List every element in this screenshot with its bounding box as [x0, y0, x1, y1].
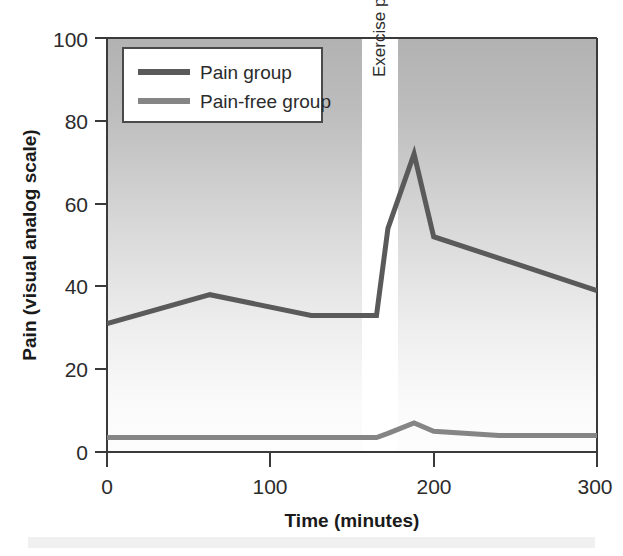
legend-label-pain-free-group: Pain-free group	[200, 91, 331, 112]
bottom-strip	[28, 537, 595, 548]
y-tick-label-40: 40	[65, 275, 88, 298]
x-axis-ticks	[107, 452, 597, 467]
y-tick-label-100: 100	[53, 28, 88, 51]
chart-figure: Exercise period 0 20 40 60 80 100	[0, 0, 623, 556]
y-axis-ticks	[95, 38, 107, 452]
y-tick-label-80: 80	[65, 110, 88, 133]
x-tick-label-100: 100	[252, 475, 287, 498]
chart-legend: Pain group Pain-free group	[123, 48, 331, 122]
x-axis-title: Time (minutes)	[285, 510, 420, 531]
legend-label-pain-group: Pain group	[200, 62, 292, 83]
y-tick-label-20: 20	[65, 358, 88, 381]
pain-vas-line-chart: Exercise period 0 20 40 60 80 100	[0, 0, 623, 556]
y-tick-label-60: 60	[65, 193, 88, 216]
exercise-period-band	[362, 38, 398, 452]
y-axis-tick-labels: 0 20 40 60 80 100	[53, 28, 88, 464]
x-tick-label-200: 200	[416, 475, 451, 498]
x-tick-label-300: 300	[577, 475, 612, 498]
y-tick-label-0: 0	[76, 441, 88, 464]
x-axis-tick-labels: 0 100 200 300	[101, 475, 612, 498]
x-tick-label-0: 0	[101, 475, 113, 498]
y-axis-title: Pain (visual analog scale)	[19, 129, 40, 360]
